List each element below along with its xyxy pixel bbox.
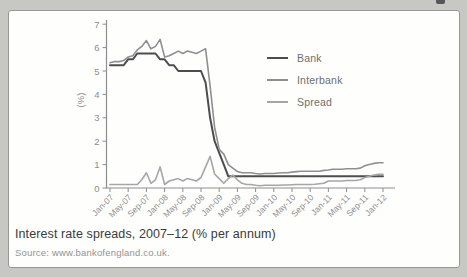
svg-text:7: 7 [94,19,99,30]
legend-line-swatch-interbank [267,79,288,81]
svg-text:2: 2 [94,136,99,147]
svg-text:Jan-12: Jan-12 [363,192,389,218]
source-label: Source: [15,247,49,258]
svg-text:0: 0 [94,183,99,194]
svg-text:5: 5 [94,66,99,77]
legend-label-interbank: Interbank [297,74,343,86]
chart-legend: Bank Interbank Spread [267,47,343,113]
legend-line-swatch-bank [267,57,288,59]
svg-text:3: 3 [94,112,99,123]
legend-item-bank: Bank [267,47,343,69]
svg-text:4: 4 [94,89,99,100]
legend-label-bank: Bank [297,52,322,64]
svg-text:1: 1 [94,159,99,170]
svg-text:(%): (%) [75,93,86,108]
legend-label-spread: Spread [297,96,332,108]
figure-caption: Interest rate spreads, 2007–12 (% per an… [15,227,445,241]
svg-text:6: 6 [94,42,99,53]
figure-source: Source: www.bankofengland.co.uk. [15,247,445,258]
legend-item-spread: Spread [267,91,343,113]
source-url: www.bankofengland.co.uk. [52,247,170,258]
legend-line-swatch-spread [267,101,288,103]
legend-item-interbank: Interbank [267,69,343,91]
